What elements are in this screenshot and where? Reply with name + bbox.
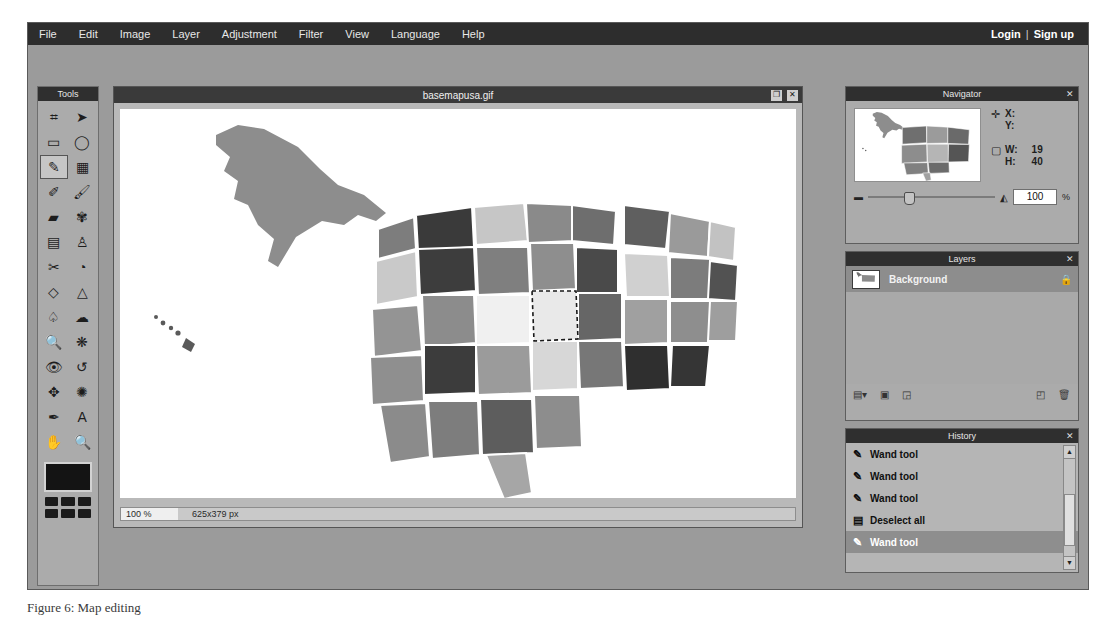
red-eye-tool-icon[interactable]: 👁: [40, 355, 68, 379]
document-title: basemapusa.gif: [423, 90, 494, 101]
layers-toolbar: ▤▾ ▣ ◲ ◰ 🗑: [846, 384, 1078, 404]
figure-caption: Figure 6: Map editing: [27, 600, 141, 620]
crop-tool-icon[interactable]: ⌗: [40, 105, 68, 129]
document-status-bar: 100 % 625x379 px: [120, 507, 796, 521]
document-window: basemapusa.gif ❐ ✕: [113, 86, 803, 528]
zoom-tool-icon[interactable]: 🔍: [69, 430, 97, 454]
close-icon[interactable]: ✕: [786, 89, 799, 102]
menu-item-edit[interactable]: Edit: [68, 23, 109, 45]
dodge-tool-icon[interactable]: ◇: [40, 280, 68, 304]
history-close-icon[interactable]: ✕: [1066, 430, 1074, 442]
login-link[interactable]: Login: [991, 28, 1021, 40]
history-item[interactable]: ✎Wand tool: [846, 443, 1078, 465]
eraser-tool-icon[interactable]: ▰: [40, 205, 68, 229]
hand-tool-icon[interactable]: ✋: [40, 430, 68, 454]
scrollbar-thumb[interactable]: [1064, 494, 1075, 546]
palette-swatch-0[interactable]: [45, 497, 58, 506]
status-image-size: 625x379 px: [178, 509, 239, 519]
history-item[interactable]: ✎Wand tool: [846, 465, 1078, 487]
navigator-thumbnail[interactable]: [854, 108, 981, 182]
signup-link[interactable]: Sign up: [1034, 28, 1074, 40]
lasso-tool-icon[interactable]: ◯: [69, 130, 97, 154]
blur-tool-icon[interactable]: ◔: [69, 255, 97, 279]
paint-bucket-tool-icon[interactable]: ♙: [69, 230, 97, 254]
palette-swatch-1[interactable]: [61, 497, 74, 506]
sharpen-tool-icon[interactable]: ❋: [69, 330, 97, 354]
navigator-y-label: Y:: [1005, 120, 1015, 132]
status-zoom-level[interactable]: 100 %: [121, 508, 178, 520]
clone-stamp-tool-icon[interactable]: ✾: [69, 205, 97, 229]
lock-icon: 🔒: [1060, 274, 1072, 285]
history-item-label: Wand tool: [870, 449, 918, 460]
sponge-tool-icon[interactable]: ♤: [40, 305, 68, 329]
palette-swatch-2[interactable]: [78, 497, 91, 506]
foreground-color-swatch[interactable]: [44, 462, 92, 492]
zoom-value-input[interactable]: 100: [1013, 189, 1057, 205]
delete-layer-button[interactable]: 🗑: [1058, 389, 1071, 400]
transform-tool-icon[interactable]: ✥: [40, 380, 68, 404]
scroll-down-icon[interactable]: ▼: [1064, 556, 1075, 569]
menu-item-layer[interactable]: Layer: [161, 23, 211, 45]
layer-thumbnail: [852, 270, 880, 289]
layer-group-button[interactable]: ◲: [902, 389, 911, 400]
palette-swatch-3[interactable]: [45, 509, 58, 518]
zoom-slider[interactable]: [868, 192, 995, 202]
navigator-panel-title: Navigator ✕: [846, 87, 1078, 101]
navigator-title-text: Navigator: [943, 89, 982, 99]
new-layer-button[interactable]: ◰: [1036, 389, 1045, 400]
document-title-bar[interactable]: basemapusa.gif ❐ ✕: [114, 87, 802, 103]
magic-wand-tool-icon[interactable]: ✎: [40, 155, 68, 179]
history-scrollbar[interactable]: ▲ ▼: [1063, 445, 1076, 570]
history-item-label: Wand tool: [870, 537, 918, 548]
menu-bar: File Edit Image Layer Adjustment Filter …: [28, 23, 1088, 45]
zoom-percent-label: %: [1062, 192, 1070, 202]
zoom-in-icon[interactable]: ◭: [1000, 192, 1008, 203]
menu-item-filter[interactable]: Filter: [288, 23, 334, 45]
maximize-icon[interactable]: ❐: [770, 89, 783, 102]
zoom-slider-handle[interactable]: [904, 192, 915, 205]
layers-empty-area[interactable]: [846, 292, 1078, 384]
brush-tool-icon[interactable]: 🖌: [69, 180, 97, 204]
selection-size-icon: ▢: [991, 144, 1005, 157]
move-tool-icon[interactable]: ➤: [69, 105, 97, 129]
palette-swatch-5[interactable]: [78, 509, 91, 518]
navigator-close-icon[interactable]: ✕: [1066, 88, 1074, 100]
layers-toolbar-right: ◰ 🗑: [1036, 389, 1071, 400]
history-item[interactable]: ✎Wand tool: [846, 531, 1078, 553]
menu-item-adjustment[interactable]: Adjustment: [211, 23, 288, 45]
menu-item-language[interactable]: Language: [380, 23, 451, 45]
menu-item-file[interactable]: File: [28, 23, 68, 45]
history-list: ✎Wand tool✎Wand tool✎Wand tool▤Deselect …: [846, 443, 1078, 572]
menu-item-help[interactable]: Help: [451, 23, 496, 45]
cloud-tool-icon[interactable]: ☁: [69, 305, 97, 329]
history-item[interactable]: ✎Wand tool: [846, 487, 1078, 509]
history-item-label: Wand tool: [870, 471, 918, 482]
scroll-up-icon[interactable]: ▲: [1064, 446, 1075, 459]
palette-swatch-4[interactable]: [61, 509, 74, 518]
rectangle-select-tool-icon[interactable]: ▭: [40, 130, 68, 154]
smudge-tool-icon[interactable]: ✂: [40, 255, 68, 279]
text-tool-icon[interactable]: A: [69, 405, 97, 429]
undo-tool-icon[interactable]: ↺: [69, 355, 97, 379]
crosshair-icon: ✛: [991, 108, 1005, 121]
gradient-tool-icon[interactable]: ▤: [40, 230, 68, 254]
pencil-tool-icon[interactable]: ✐: [40, 180, 68, 204]
layers-close-icon[interactable]: ✕: [1066, 253, 1074, 265]
layer-row-background[interactable]: Background 🔒: [846, 266, 1078, 292]
zoom-select-tool-icon[interactable]: 🔍: [40, 330, 68, 354]
spider-tool-icon[interactable]: ✺: [69, 380, 97, 404]
history-item-icon: ✎: [853, 492, 870, 505]
layer-mask-button[interactable]: ▣: [880, 389, 889, 400]
image-canvas[interactable]: [120, 109, 796, 498]
history-item[interactable]: ▤Deselect all: [846, 509, 1078, 531]
zoom-out-icon[interactable]: ▬: [854, 192, 863, 202]
eyedropper-tool-icon[interactable]: ✒: [40, 405, 68, 429]
crop-selection-tool-icon[interactable]: ▦: [69, 155, 97, 179]
selection-marching-ants: [532, 291, 578, 341]
navigator-body: ✛ X: Y: ▢ W: H:: [846, 101, 1078, 189]
burn-tool-icon[interactable]: △: [69, 280, 97, 304]
menu-item-image[interactable]: Image: [109, 23, 162, 45]
workspace: Tools ⌗➤▭◯✎▦✐🖌▰✾▤♙✂◔◇△♤☁🔍❋👁↺✥✺✒A✋🔍 basem…: [28, 45, 1088, 589]
menu-item-view[interactable]: View: [334, 23, 380, 45]
layer-styles-button[interactable]: ▤▾: [853, 389, 867, 400]
